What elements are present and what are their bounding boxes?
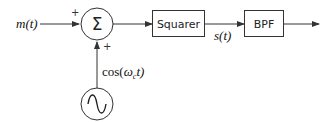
block-diagram: m(t) + Σ + cos(ωct) Squarer s(t) BPF <box>0 0 333 122</box>
oscillator <box>81 88 113 120</box>
sigma-icon: Σ <box>92 14 103 34</box>
carrier-label: cos(ωct) <box>102 64 144 81</box>
sum-sign-top: + <box>71 7 79 18</box>
squarer-block: Squarer <box>153 11 205 37</box>
bpf-block: BPF <box>245 11 284 37</box>
intermediate-label: s(t) <box>214 28 231 43</box>
bpf-label: BPF <box>254 18 275 31</box>
squarer-label: Squarer <box>157 18 201 31</box>
sum-sign-bottom: + <box>103 41 111 52</box>
summing-junction: Σ <box>81 8 113 40</box>
input-label: m(t) <box>16 16 38 31</box>
